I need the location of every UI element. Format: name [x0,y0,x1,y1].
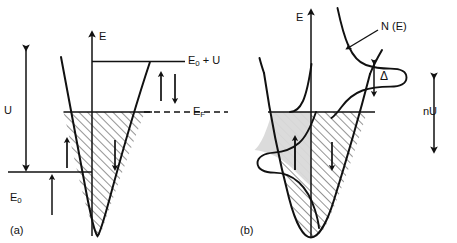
delta-label: Δ [380,70,388,82]
energy-axis-label-b: E [296,12,303,23]
e0-label: E0 [10,192,22,205]
nu-label: nU [423,106,437,117]
panel-caption-b: (b) [240,225,253,236]
level-label-e0-plus-u: E0 + U [188,55,220,68]
fermi-level-label: EF [193,106,205,119]
dos-leader-arrow [348,30,378,48]
diagram-canvas [0,0,457,243]
dos-inner-edge-b [290,64,312,112]
stoner-band-diagram-figure: E E0 + U EF U E0 (a) E N (E) Δ nU (b) [0,0,457,243]
panel-caption-a: (a) [10,225,23,236]
panel-b-group [255,8,435,238]
energy-axis-label-a: E [99,31,106,42]
band-parabola-b-left-tail [260,58,265,73]
dos-label: N (E) [381,21,407,32]
u-label: U [4,105,12,116]
